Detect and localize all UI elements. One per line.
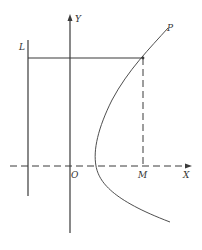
label-m: M (137, 170, 148, 180)
curve-point-dot (142, 57, 145, 60)
label-o: O (71, 170, 79, 180)
parabola-curve (95, 28, 170, 222)
label-x: X (182, 170, 190, 180)
x-axis-arrow-icon (185, 164, 192, 169)
parabola-diagram: Y L P O M X (0, 0, 202, 250)
label-y: Y (75, 14, 82, 24)
label-l: L (18, 42, 25, 52)
y-axis-arrow-icon (68, 14, 73, 21)
label-p: P (166, 23, 174, 33)
